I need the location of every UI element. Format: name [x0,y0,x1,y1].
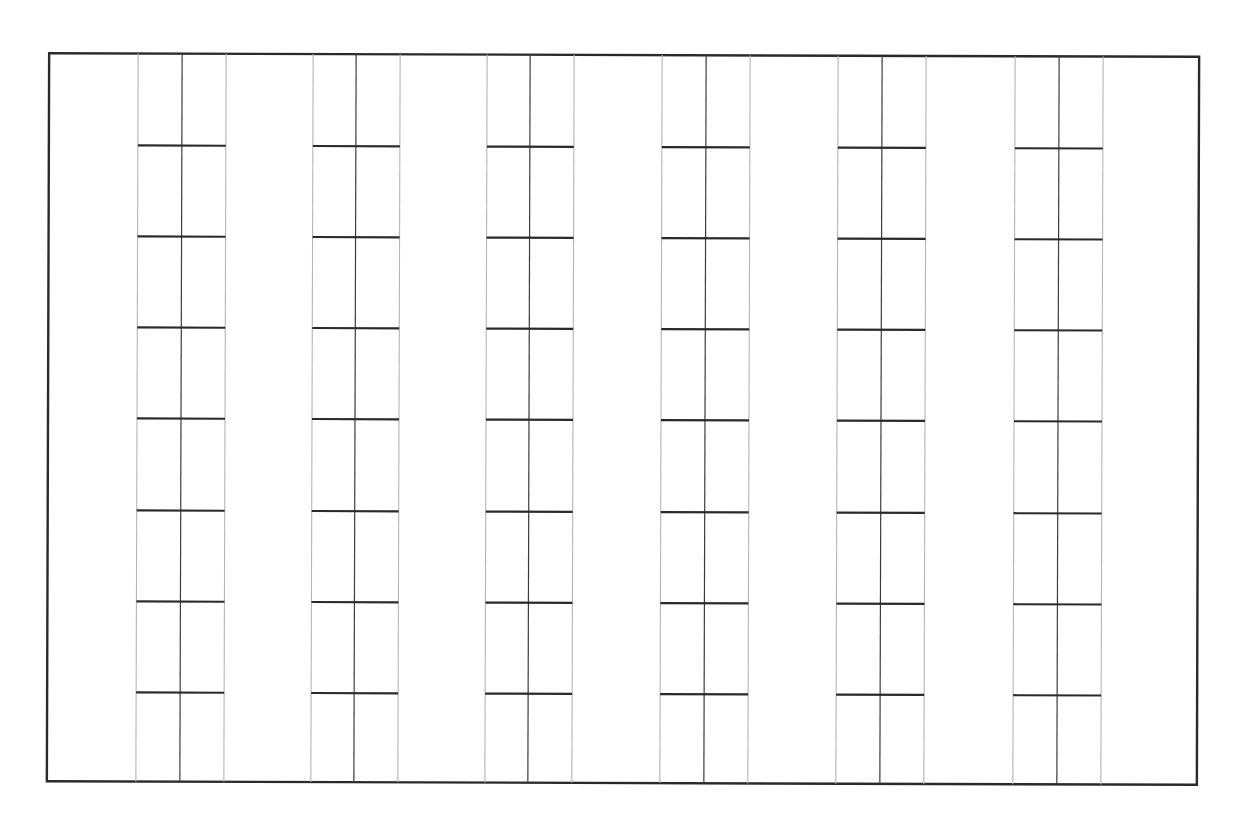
ladder-column-2 [311,54,400,782]
ladder-column-1 [136,53,226,781]
ladder-columns [136,53,1103,784]
ladder-column-5 [836,56,926,784]
ladder-column-3 [485,55,574,783]
ladder-column-4 [660,55,750,783]
ladder-column-6 [1013,56,1103,784]
ladder-grid-diagram [0,0,1248,824]
diagram-body [47,53,1199,785]
